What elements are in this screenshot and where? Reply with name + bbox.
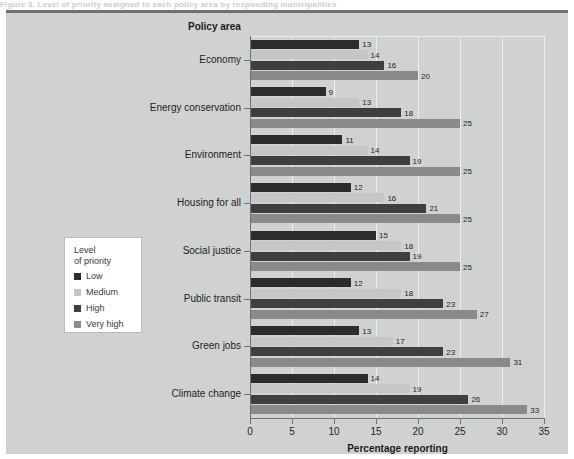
clipped-caption-text: Figure 3. Level of priority assigned to … [0,0,574,9]
legend-swatch-icon [74,273,81,280]
category-tick-mark [244,299,250,300]
bar-value-label: 16 [387,194,396,203]
category-label-social-justice: Social justice [183,245,241,256]
legend-label: Medium [86,287,118,297]
bar-value-label: 11 [345,136,353,145]
category-axis-title: Policy area [188,21,241,32]
bar-group: 15181925 [250,227,544,275]
bar-value-label: 25 [463,263,472,272]
legend-swatch-icon [74,305,81,312]
bar-value-label: 9 [329,88,333,97]
value-tick-mark-30 [502,419,503,424]
bar-value-label: 13 [362,98,371,107]
bar-value-label: 20 [421,72,430,81]
bar-value-label: 12 [354,183,363,192]
value-tick-mark-25 [460,419,461,424]
bar-group: 14192633 [250,370,544,418]
bar-value-label: 19 [413,157,422,166]
bar-value-label: 14 [371,374,380,383]
bar [250,167,460,176]
bar [250,241,401,250]
category-label-housing-for-all: Housing for all [177,197,241,208]
bar [250,50,368,59]
bar-value-label: 14 [371,51,380,60]
bar-group: 13172331 [250,323,544,371]
bar-value-label: 25 [463,167,472,176]
bar-value-label: 13 [362,40,371,49]
bar [250,289,401,298]
bar [250,358,510,367]
bar [250,87,326,96]
value-tick-label-35: 35 [538,426,549,437]
bar-value-label: 21 [429,204,438,213]
bar [250,135,342,144]
bar [250,156,410,165]
legend-swatch-icon [74,289,81,296]
value-tick-label-30: 30 [496,426,507,437]
legend-title: Level of priority [74,245,111,267]
bar-value-label: 13 [362,327,371,336]
category-tick-mark [244,108,250,109]
bar-value-label: 27 [480,310,489,319]
bar-value-label: 17 [396,337,405,346]
value-tick-label-5: 5 [289,426,295,437]
bar-value-label: 33 [530,406,539,415]
bar [250,395,468,404]
bar [250,214,460,223]
bar [250,252,410,261]
bar-group: 11141925 [250,132,544,180]
value-tick-mark-0 [250,419,251,424]
value-tick-mark-10 [334,419,335,424]
bar [250,262,460,271]
bar-group: 12182327 [250,275,544,323]
bar-group: 9131825 [250,84,544,132]
legend-label: Low [86,271,103,281]
category-tick-mark [244,346,250,347]
value-tick-label-20: 20 [412,426,423,437]
bar-value-label: 19 [413,252,422,261]
value-tick-mark-5 [292,419,293,424]
bar-group: 12162125 [250,179,544,227]
category-tick-mark [244,155,250,156]
value-tick-label-10: 10 [328,426,339,437]
bar-value-label: 31 [513,358,522,367]
gridline-35 [544,36,545,418]
value-tick-mark-15 [376,419,377,424]
bar-value-label: 12 [354,279,363,288]
bar [250,310,477,319]
bar [250,278,351,287]
category-tick-mark [244,394,250,395]
category-tick-mark [244,203,250,204]
bar-value-label: 14 [371,146,380,155]
bar-value-label: 18 [404,109,413,118]
bar [250,405,527,414]
category-label-energy-conservation: Energy conservation [150,102,241,113]
bar [250,108,401,117]
bar-value-label: 18 [404,242,413,251]
legend-swatch-icon [74,321,81,328]
bar-value-label: 19 [413,385,422,394]
bar [250,299,443,308]
category-label-public-transit: Public transit [184,293,241,304]
category-axis-line [250,36,251,418]
value-tick-label-25: 25 [454,426,465,437]
bar [250,98,359,107]
bar [250,146,368,155]
legend-box: Level of priority LowMediumHighVery high [64,237,142,333]
bar-value-label: 18 [404,289,413,298]
value-tick-mark-35 [544,419,545,424]
legend-label: High [86,303,105,313]
bar [250,204,426,213]
value-tick-label-15: 15 [370,426,381,437]
bar [250,40,359,49]
bar [250,61,384,70]
bar-value-label: 23 [446,300,455,309]
figure-container: Figure 3. Level of priority assigned to … [0,0,574,459]
bar-value-label: 16 [387,61,396,70]
bar [250,326,359,335]
bar-value-label: 15 [379,231,388,240]
bar [250,119,460,128]
bar [250,71,418,80]
plot-area: 1314162091318251114192512162125151819251… [250,36,544,418]
value-tick-label-0: 0 [247,426,253,437]
